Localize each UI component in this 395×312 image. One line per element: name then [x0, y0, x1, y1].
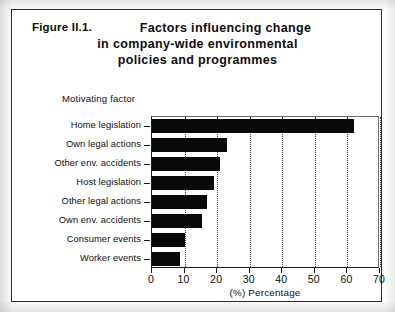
y-axis-label: Own legal actions: [23, 139, 141, 149]
plot-area: [151, 116, 379, 268]
y-axis-tick: [144, 126, 150, 127]
x-axis-tick-label: 40: [266, 273, 296, 285]
x-axis-tick-label: 20: [201, 273, 231, 285]
x-axis-tick-label: 60: [331, 273, 361, 285]
bar: [152, 157, 220, 171]
y-axis-title: Motivating factor: [62, 93, 135, 104]
scanned-page: Figure II.1. Factors influencing change …: [0, 0, 395, 312]
y-axis-label: Home legislation: [23, 120, 141, 130]
x-axis-tick-label: 50: [299, 273, 329, 285]
y-axis-labels: Home legislationOwn legal actionsOther e…: [23, 116, 141, 268]
bar: [152, 195, 207, 209]
x-axis-tick-label: 0: [136, 273, 166, 285]
x-axis-tick-label: 70: [364, 273, 394, 285]
bar-row: [152, 136, 380, 155]
figure-title: Factors influencing change in company-wi…: [12, 20, 383, 68]
bar-row: [152, 212, 380, 231]
bar: [152, 138, 227, 152]
bar-row: [152, 155, 380, 174]
gridline: [380, 117, 381, 267]
y-axis-label: Other legal actions: [23, 196, 141, 206]
bar-row: [152, 117, 380, 136]
bar-row: [152, 193, 380, 212]
figure-title-line-1: Factors influencing change: [12, 20, 383, 36]
y-axis-label: Worker events: [23, 253, 141, 263]
bar-row: [152, 250, 380, 269]
y-axis-label: Host legislation: [23, 177, 141, 187]
y-axis-label: Own env. accidents: [23, 215, 141, 225]
bar: [152, 233, 185, 247]
y-axis-tick: [144, 259, 150, 260]
y-axis-tick: [144, 202, 150, 203]
bar: [152, 252, 180, 266]
x-axis-tick-label: 30: [234, 273, 264, 285]
bar-row: [152, 174, 380, 193]
y-axis-label: Other env. accidents: [23, 158, 141, 168]
figure-title-line-3: policies and programmes: [12, 52, 383, 68]
x-axis-title: (%) Percentage: [151, 287, 379, 298]
bar: [152, 119, 354, 133]
y-axis-tick: [144, 183, 150, 184]
figure-frame: Figure II.1. Factors influencing change …: [11, 9, 382, 302]
bar: [152, 214, 202, 228]
bar-row: [152, 231, 380, 250]
y-axis-tick: [144, 240, 150, 241]
figure-title-line-2: in company-wide environmental: [12, 36, 383, 52]
x-axis-tick-label: 10: [169, 273, 199, 285]
y-axis-label: Consumer events: [23, 234, 141, 244]
y-axis-tick: [144, 221, 150, 222]
y-axis-tick: [144, 145, 150, 146]
y-axis-tick: [144, 164, 150, 165]
bar: [152, 176, 214, 190]
